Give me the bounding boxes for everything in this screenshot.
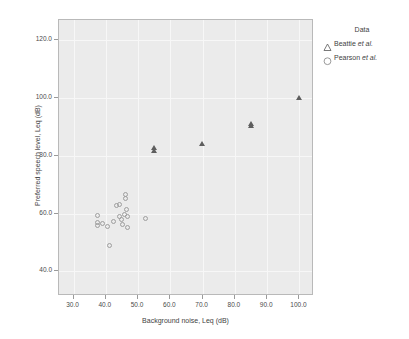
data-point-circle	[125, 214, 130, 219]
scatter-chart-figure: 30.040.050.060.070.080.090.0100.0 40.060…	[0, 0, 409, 339]
data-point-circle	[107, 243, 112, 248]
circle-icon	[322, 52, 334, 62]
x-tick	[137, 295, 138, 299]
legend-item-beattie[interactable]: Beattie et al.	[322, 38, 407, 48]
y-tick-label: 60.0	[10, 209, 52, 216]
data-point-triangle	[248, 123, 254, 128]
legend-label-pearson: Pearson et al.	[334, 54, 377, 61]
x-tick	[234, 295, 235, 299]
data-point-circle	[117, 202, 122, 207]
gridline-horizontal	[59, 156, 312, 157]
y-tick-label: 100.0	[10, 93, 52, 100]
gridline-vertical	[106, 20, 107, 294]
triangle-icon	[322, 38, 334, 48]
x-tick	[105, 295, 106, 299]
x-tick	[169, 295, 170, 299]
gridline-horizontal	[59, 271, 312, 272]
y-tick	[54, 39, 58, 40]
legend-label-beattie-main: Beattie	[334, 40, 358, 47]
legend: Data Beattie et al. Pearson et al.	[322, 26, 407, 66]
y-tick-label: 120.0	[10, 35, 52, 42]
data-point-triangle	[296, 95, 302, 100]
gridline-horizontal	[59, 40, 312, 41]
data-point-circle	[143, 216, 148, 221]
data-point-circle	[124, 207, 129, 212]
y-tick-label: 80.0	[10, 151, 52, 158]
y-tick	[54, 213, 58, 214]
plot-area	[58, 19, 313, 295]
gridline-vertical	[74, 20, 75, 294]
gridline-vertical	[235, 20, 236, 294]
gridline-horizontal	[59, 98, 312, 99]
data-point-circle	[111, 219, 116, 224]
data-point-circle	[105, 224, 110, 229]
data-point-circle	[119, 217, 124, 222]
gridline-vertical	[170, 20, 171, 294]
y-tick-label: 40.0	[10, 266, 52, 273]
data-point-circle	[123, 196, 128, 201]
x-tick	[73, 295, 74, 299]
y-tick	[54, 270, 58, 271]
data-point-triangle	[199, 141, 205, 146]
gridline-vertical	[203, 20, 204, 294]
data-point-triangle	[151, 148, 157, 153]
plot-inner-canvas	[59, 20, 312, 294]
data-point-circle	[120, 222, 125, 227]
legend-title: Data	[326, 26, 398, 33]
x-tick	[202, 295, 203, 299]
gridline-vertical	[138, 20, 139, 294]
x-tick	[298, 295, 299, 299]
gridline-vertical	[267, 20, 268, 294]
y-tick	[54, 97, 58, 98]
legend-label-beattie: Beattie et al.	[334, 40, 373, 47]
legend-label-pearson-italic: et al.	[362, 54, 377, 61]
legend-label-beattie-italic: et al.	[358, 40, 373, 47]
legend-item-pearson[interactable]: Pearson et al.	[322, 52, 407, 62]
data-point-circle	[125, 225, 130, 230]
x-tick	[266, 295, 267, 299]
y-tick	[54, 155, 58, 156]
data-point-circle	[95, 213, 100, 218]
gridline-vertical	[299, 20, 300, 294]
x-axis-title: Background noise, Leq (dB)	[58, 317, 313, 324]
y-axis-title: Preferred speech level, Leq (dB)	[34, 31, 41, 281]
legend-label-pearson-main: Pearson	[334, 54, 362, 61]
x-tick-label: 100.0	[278, 301, 318, 308]
